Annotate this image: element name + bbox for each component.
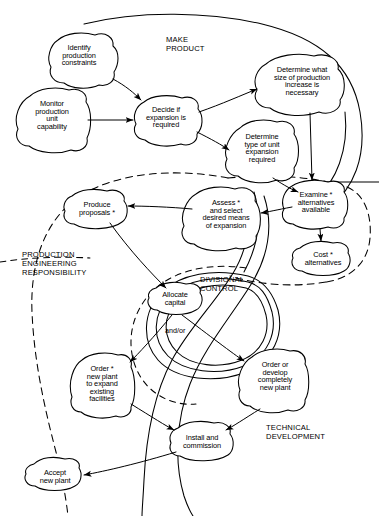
node-label-examine-alternatives-available[interactable]: Examine * alternatives available <box>283 191 349 214</box>
diagram-canvas: MAKE PRODUCT PRODUCTION ENGINEERING RESP… <box>0 0 379 516</box>
connector-label-and-or: and/or <box>165 326 185 335</box>
edge-allocate-capital-to-order-develop <box>182 315 244 361</box>
edge-determine-size-to-examine <box>310 113 312 180</box>
node-label-order-new-plant-to-expand[interactable]: Order * new plant to expand existing fac… <box>72 365 132 403</box>
edge-decide-to-determine-type <box>197 132 229 150</box>
node-label-accept-new-plant[interactable]: Accept new plant <box>27 469 83 484</box>
zone-label-production-engineering: PRODUCTION ENGINEERING RESPONSIBILITY <box>22 251 87 278</box>
edge-order-develop-to-install <box>226 409 260 430</box>
edge-examine-to-cost <box>320 229 321 241</box>
node-label-assess-and-select-means-of-expansion[interactable]: Assess * and select desired means of exp… <box>188 199 264 229</box>
node-label-monitor-production-unit-capability[interactable]: Monitor production unit capability <box>19 100 85 130</box>
edge-identify-to-decide <box>113 79 141 100</box>
edge-produce-proposals-to-allocate-capital <box>110 223 166 288</box>
node-label-install-and-commission[interactable]: Install and commission <box>171 434 233 449</box>
edge-install-to-accept-new-plant <box>84 452 176 475</box>
node-label-cost-alternatives[interactable]: Cost * alternatives <box>293 251 353 266</box>
edge-decide-to-determine-size <box>199 89 257 112</box>
node-label-allocate-capital[interactable]: Allocate capital <box>147 291 203 306</box>
node-label-determine-size-of-production-increase[interactable]: Determine what size of production increa… <box>258 66 346 96</box>
edge-assess-to-produce-proposals <box>128 206 192 209</box>
node-label-order-or-develop-new-plant[interactable]: Order or develop completely new plant <box>242 361 308 391</box>
node-label-identify-production-constraints[interactable]: Identify production constraints <box>46 44 112 67</box>
zone-boundary-production-engineering-lower <box>230 276 326 285</box>
node-label-decide-if-expansion-required[interactable]: Decide if expansion is required <box>134 106 198 129</box>
node-label-determine-type-of-unit-expansion[interactable]: Determine type of unit expansion require… <box>229 133 295 163</box>
zone-label-technical-development: TECHNICAL DEVELOPMENT <box>266 424 325 442</box>
edge-order-new-plant-to-install <box>131 404 174 430</box>
zone-label-divisional-control: DIVISIONAL CONTROL <box>200 276 244 294</box>
node-label-produce-proposals[interactable]: Produce proposals * <box>64 201 130 216</box>
edge-allocate-capital-to-order-new-plant <box>130 315 172 362</box>
zone-label-make-product: MAKE PRODUCT <box>166 36 205 54</box>
